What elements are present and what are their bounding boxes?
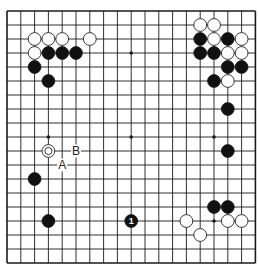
white-stone-icon [194,19,207,32]
white-stone-icon [221,215,234,228]
black-stone-icon [208,47,221,60]
black-stone-icon [221,61,234,74]
white-stone[interactable] [208,33,221,46]
white-stone-icon [42,145,55,158]
black-stone-icon [42,215,55,228]
star-point [47,135,51,139]
white-stone[interactable] [235,33,248,46]
white-stone[interactable] [194,229,207,242]
stones-layer: 1 [28,19,248,242]
white-stone-icon [235,47,248,60]
white-stone[interactable] [83,33,96,46]
labels-layer: AB [57,144,81,172]
white-stone-icon [180,215,193,228]
point-label-b: B [71,144,81,158]
white-stone-icon [235,215,248,228]
label-text: A [58,158,66,172]
black-stone[interactable] [70,47,83,60]
black-stone-icon [28,173,41,186]
white-stone-icon [221,47,234,60]
white-stone-icon [235,33,248,46]
black-stone-icon [194,47,207,60]
white-stone-icon [42,33,55,46]
white-stone[interactable] [56,33,69,46]
black-stone[interactable] [194,47,207,60]
white-stone[interactable] [28,47,41,60]
white-stone-icon [208,19,221,32]
black-stone[interactable] [221,201,234,214]
white-stone-icon [56,33,69,46]
white-stone-icon [221,75,234,88]
black-stone[interactable] [28,173,41,186]
black-stone[interactable] [42,75,55,88]
black-stone[interactable] [221,145,234,158]
white-stone-icon [83,33,96,46]
black-stone-icon [208,75,221,88]
black-stone[interactable] [208,75,221,88]
black-stone-icon [28,61,41,74]
white-stone[interactable] [235,47,248,60]
white-stone[interactable] [180,215,193,228]
white-stone[interactable] [42,145,55,158]
star-point [212,219,216,223]
move-number: 1 [129,216,134,226]
white-stone[interactable] [208,19,221,32]
black-stone-icon [221,145,234,158]
star-point [129,135,133,139]
black-stone-icon [70,47,83,60]
black-stone[interactable] [194,33,207,46]
go-board[interactable]: 1 AB [0,0,258,271]
white-stone[interactable] [221,47,234,60]
black-stone[interactable] [56,47,69,60]
black-stone[interactable] [28,61,41,74]
star-point [212,135,216,139]
black-stone-icon [42,75,55,88]
label-text: B [72,144,80,158]
white-stone[interactable] [194,19,207,32]
black-stone[interactable] [221,61,234,74]
black-stone-icon [56,47,69,60]
white-stone[interactable] [235,215,248,228]
black-stone[interactable] [42,47,55,60]
black-stone[interactable] [221,103,234,116]
black-stone[interactable] [42,215,55,228]
white-stone[interactable] [221,75,234,88]
white-stone-icon [208,33,221,46]
black-stone-icon [221,201,234,214]
black-stone-icon [221,33,234,46]
black-stone-icon [235,61,248,74]
white-stone[interactable] [221,215,234,228]
black-stone-icon [194,33,207,46]
black-stone[interactable] [208,201,221,214]
white-stone-icon [194,229,207,242]
star-point [129,51,133,55]
black-stone-icon [42,47,55,60]
white-stone-icon [28,33,41,46]
black-stone[interactable] [221,33,234,46]
point-label-a: A [57,158,67,172]
black-stone-icon [221,103,234,116]
white-stone-icon [28,47,41,60]
black-stone[interactable] [235,61,248,74]
black-stone[interactable] [208,47,221,60]
black-stone[interactable]: 1 [125,215,138,228]
white-stone[interactable] [28,33,41,46]
white-stone[interactable] [42,33,55,46]
black-stone-icon [208,201,221,214]
